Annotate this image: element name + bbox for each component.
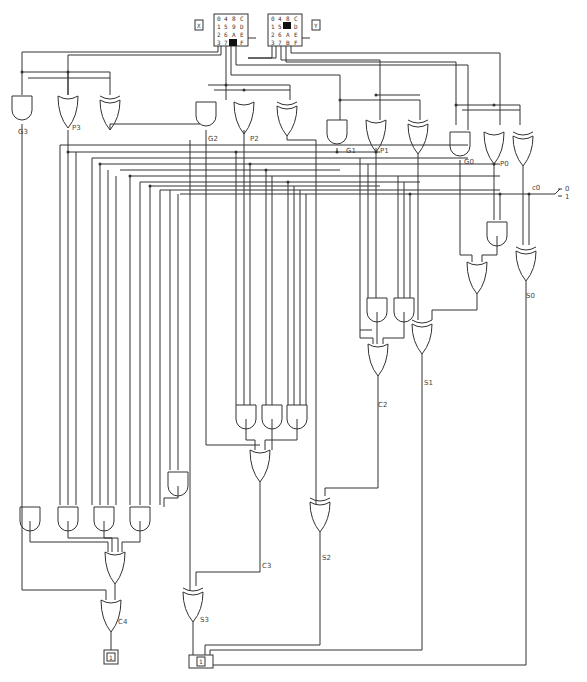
svg-text:3: 3 [271,39,275,46]
y-keypad[interactable]: 048C 15D 26AE 37BF [268,14,310,46]
svg-text:C: C [240,15,244,22]
svg-text:0: 0 [565,185,569,193]
svg-text:8: 8 [232,15,236,22]
svg-text:1: 1 [217,23,221,30]
svg-text:0: 0 [271,15,275,22]
gate-or-c1 [467,262,487,294]
gate-and-g1 [327,120,347,144]
s2-wire [205,532,320,655]
svg-text:4: 4 [224,15,228,22]
gate-and-g3 [12,96,32,120]
gate-or-c4-inner [105,552,125,584]
svg-text:5: 5 [224,23,228,30]
svg-text:6: 6 [224,31,228,38]
label-s0: S0 [526,292,535,300]
svg-text:7: 7 [278,39,282,46]
gate-xor-1 [408,120,428,154]
label-p3: P3 [72,124,81,132]
label-g2: G2 [208,135,218,143]
y-input-label-box: Y [312,20,320,30]
gate-or-c4 [101,600,121,632]
svg-text:E: E [240,31,244,38]
gate-and-g2 [196,102,216,126]
sum-output-display: 1 [189,655,213,668]
gate-xor-s2 [310,498,330,532]
svg-text:E: E [294,31,298,38]
c4-inner-wires [30,521,140,552]
gate-xor-s0 [516,247,536,281]
carry-in-switch[interactable]: c0 0 1 [180,184,569,201]
gate-xor-2 [277,102,297,136]
svg-text:6: 6 [278,31,282,38]
gate-xor-0 [513,132,533,166]
svg-text:1: 1 [271,23,275,30]
label-g1: G1 [346,147,356,155]
input-bus-wires [22,46,520,130]
svg-text:Y: Y [314,22,318,29]
carry-in-label: c0 [532,184,540,192]
svg-text:1: 1 [199,658,203,665]
label-c3: C3 [262,562,271,570]
svg-text:1: 1 [109,654,113,661]
x-selected-key [229,39,237,46]
label-g0: G0 [464,158,474,166]
svg-text:2: 2 [217,31,221,38]
label-p0: P0 [500,160,509,168]
label-s1: S1 [424,379,433,387]
svg-text:9: 9 [232,23,236,30]
label-s2: S2 [322,554,331,562]
x-input-label-box: X [195,20,203,30]
svg-text:X: X [197,22,201,29]
svg-text:B: B [286,39,290,46]
svg-text:C: C [294,15,298,22]
svg-text:0: 0 [217,15,221,22]
y-selected-key [283,22,291,29]
gate-xor-s1 [412,320,432,354]
svg-text:4: 4 [278,15,282,22]
svg-text:F: F [240,39,244,46]
svg-text:5: 5 [278,23,282,30]
label-s3: S3 [200,616,209,624]
label-p1: P1 [380,147,389,155]
label-c4: C4 [118,618,128,626]
svg-text:A: A [286,31,290,38]
x-keypad[interactable]: 048C 159D 26AE 37F [214,14,256,46]
label-g3: G3 [18,128,28,136]
svg-text:D: D [294,23,298,30]
gate-and-g0 [450,132,470,156]
c3-wire [196,482,260,586]
label-p2: P2 [250,135,259,143]
gate-or-p2 [234,102,254,134]
signal-buses [60,145,500,190]
c2-wire [325,376,378,496]
label-c2: C2 [378,401,387,409]
svg-text:A: A [232,31,236,38]
gate-or-c3 [250,450,270,482]
gate-or-c2 [368,344,388,376]
s0-wire [200,281,526,665]
svg-text:7: 7 [224,39,228,46]
circuit-diagram: 048C 159D 26AE 37F X 048C 15D 26AE 37BF … [0,0,587,682]
c4-output-display: 1 [104,650,118,664]
svg-text:D: D [240,23,244,30]
svg-text:2: 2 [271,31,275,38]
svg-text:8: 8 [286,15,290,22]
svg-text:1: 1 [565,193,569,201]
svg-text:F: F [294,39,298,46]
svg-text:3: 3 [217,39,221,46]
c1-to-s1-wire [432,294,477,320]
circuit-canvas: 048C 159D 26AE 37F X 048C 15D 26AE 37BF … [0,0,587,682]
